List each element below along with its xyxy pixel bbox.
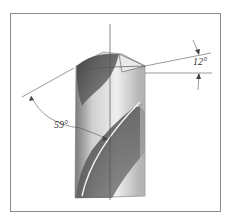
lip-angle-label: 59°	[54, 119, 68, 130]
drill-illustration	[0, 0, 231, 224]
clearance-angle-label: 12°	[193, 56, 207, 67]
